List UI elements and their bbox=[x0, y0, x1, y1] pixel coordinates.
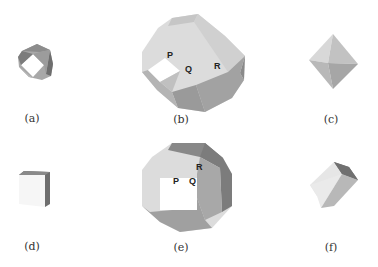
shape-c-octahedron bbox=[309, 34, 358, 89]
point-label-b-R: R bbox=[214, 61, 221, 71]
point-label-e-P: P bbox=[173, 176, 179, 186]
shape-f-cube bbox=[310, 162, 358, 208]
shape-b-truncated-polyhedron: P Q R bbox=[142, 14, 245, 112]
point-label-e-Q: Q bbox=[189, 176, 196, 186]
caption-e: (e) bbox=[173, 241, 188, 254]
shape-d-cube-corner bbox=[19, 171, 50, 207]
caption-b: (b) bbox=[173, 113, 189, 126]
shape-a-cuboctahedron bbox=[18, 44, 53, 80]
caption-d: (d) bbox=[24, 240, 40, 253]
shape-e-truncated-polyhedron: P Q R bbox=[142, 143, 232, 232]
point-label-e-R: R bbox=[196, 162, 203, 172]
point-label-b-P: P bbox=[167, 50, 173, 60]
caption-f: (f) bbox=[325, 241, 338, 254]
point-label-b-Q: Q bbox=[185, 64, 192, 74]
caption-c: (c) bbox=[324, 113, 339, 126]
figure-canvas: P Q R P Q R bbox=[0, 0, 378, 267]
caption-a: (a) bbox=[24, 112, 39, 125]
